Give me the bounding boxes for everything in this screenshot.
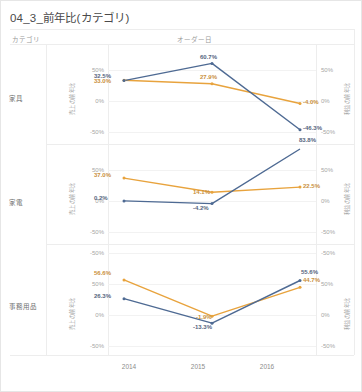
data-label-orange-2015: 27.9% xyxy=(200,74,217,80)
pane-office-supplies: -50% 50% 0% -50% -50% 50% 0% -50% 売上の前年比… xyxy=(46,245,354,344)
data-label-blue-2015: -13.3% xyxy=(193,324,212,330)
x-tick-2014: 2014 xyxy=(104,363,154,370)
pane-grid: 50% 0% -50% 50% 0% -50% 売上の前年比 利益の前年比 xyxy=(46,45,354,355)
column-field-label[interactable]: オーダー日 xyxy=(177,34,212,44)
y-axis-title-right: 利益の前年比 xyxy=(343,182,350,215)
pane-appliances: 50% 0% -50% 50% 0% -50% 売上の前年比 利益の前年比 37… xyxy=(46,145,354,244)
data-label-orange-2014: 33.0% xyxy=(94,78,111,84)
data-label-blue-2016: -46.3% xyxy=(303,125,322,131)
y-tick-left-neg50: -50% xyxy=(76,129,104,135)
line-orange-office[interactable] xyxy=(124,280,300,316)
y-tick-right-50: 50% xyxy=(321,167,333,173)
y-tick-right-neg50: -50% xyxy=(321,343,335,349)
visualization-canvas: 04_3_前年比(カテゴリ) カテゴリ オーダー日 家具 家電 事務用品 50%… xyxy=(0,0,362,392)
point-blue[interactable] xyxy=(299,279,302,282)
data-label-orange-2016: 44.7% xyxy=(303,277,320,283)
point-orange[interactable] xyxy=(211,82,214,85)
row-label-office-supplies: 事務用品 xyxy=(9,301,37,311)
point-orange[interactable] xyxy=(299,286,302,289)
point-blue[interactable] xyxy=(211,202,214,205)
y-axis-title-left: 売上の前年比 xyxy=(68,182,75,215)
point-orange[interactable] xyxy=(211,191,214,194)
y-tick-right-0: 0% xyxy=(321,198,330,204)
y-tick-left-top: -50% xyxy=(76,250,104,256)
y-tick-right-50: 50% xyxy=(321,281,333,287)
data-label-blue-2014: 26.3% xyxy=(94,293,111,299)
y-axis-title-left: 売上の前年比 xyxy=(68,82,75,115)
y-axis-title-right: 利益の前年比 xyxy=(343,297,350,330)
y-tick-right-0: 0% xyxy=(321,312,330,318)
data-label-orange-2015: -1.9% xyxy=(196,314,212,320)
data-label-orange-2016: -4.0% xyxy=(303,99,319,105)
data-label-blue-2014: 0.2% xyxy=(94,195,108,201)
point-blue[interactable] xyxy=(123,199,126,202)
row-field-label[interactable]: カテゴリ xyxy=(12,34,40,44)
point-orange[interactable] xyxy=(299,102,302,105)
title-divider xyxy=(10,29,354,30)
page-title: 04_3_前年比(カテゴリ) xyxy=(10,9,129,25)
point-orange[interactable] xyxy=(123,177,126,180)
data-label-orange-2015: 14.1% xyxy=(193,189,210,195)
data-label-blue-2015: 60.7% xyxy=(200,54,217,60)
point-blue[interactable] xyxy=(123,79,126,82)
plot-area-office-supplies: 56.6% 26.3% -1.9% -13.3% 55.6% 44.7% xyxy=(108,245,316,344)
y-tick-left-0: 0% xyxy=(76,98,104,104)
y-axis-title-left: 売上の前年比 xyxy=(68,297,75,330)
data-label-blue-2016: 55.6% xyxy=(301,269,318,275)
pane-right-border xyxy=(354,29,355,355)
x-tick-2016: 2016 xyxy=(242,363,292,370)
point-blue[interactable] xyxy=(299,128,302,131)
line-blue-appliances[interactable] xyxy=(124,149,300,204)
plot-area-appliances: 37.0% 0.2% 14.1% -4.2% 22.5% 83.8% xyxy=(108,145,316,244)
point-orange[interactable] xyxy=(299,186,302,189)
x-tick-2015: 2015 xyxy=(173,363,223,370)
data-label-orange-2014: 56.6% xyxy=(94,270,111,276)
y-tick-left-50: 50% xyxy=(76,281,104,287)
point-orange[interactable] xyxy=(123,278,126,281)
y-tick-right-0: 0% xyxy=(321,98,330,104)
y-tick-right-50: 50% xyxy=(321,67,333,73)
y-tick-left-neg50: -50% xyxy=(76,229,104,235)
data-label-blue-2015: -4.2% xyxy=(193,205,209,211)
y-tick-left-neg50: -50% xyxy=(76,343,104,349)
y-tick-right-neg50: -50% xyxy=(321,129,335,135)
plot-area-furniture: 32.5% 33.0% 60.7% 27.9% -4.0% -46.3% xyxy=(108,45,316,144)
y-axis-title-right: 利益の前年比 xyxy=(343,82,350,115)
y-tick-right-neg50: -50% xyxy=(321,229,335,235)
data-label-orange-2016: 22.5% xyxy=(303,183,320,189)
point-blue[interactable] xyxy=(211,62,214,65)
y-tick-left-0: 0% xyxy=(76,312,104,318)
line-orange-appliances[interactable] xyxy=(124,178,300,192)
data-label-orange-2014: 37.0% xyxy=(94,172,111,178)
pane-furniture: 50% 0% -50% 50% 0% -50% 売上の前年比 利益の前年比 xyxy=(46,45,354,144)
x-axis-divider xyxy=(10,355,354,356)
data-label-blue-2016: 83.8% xyxy=(299,137,316,143)
row-label-furniture: 家具 xyxy=(9,93,23,103)
y-tick-right-top: -50% xyxy=(321,250,335,256)
point-blue[interactable] xyxy=(123,297,126,300)
row-label-appliances: 家電 xyxy=(9,197,23,207)
